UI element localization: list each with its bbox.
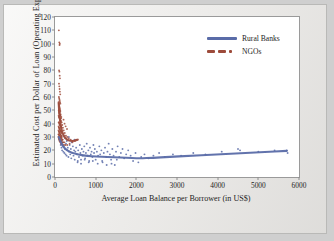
y-tick-mark (52, 150, 55, 151)
y-tick-label: 50 (44, 106, 51, 115)
y-tick-mark (52, 70, 55, 71)
chart-legend: Rural Banks NGOs (207, 33, 280, 59)
y-tick-label: 30 (44, 133, 51, 142)
x-axis-title: Average Loan Balance per Borrower (in US… (54, 194, 298, 203)
y-tick-mark (52, 163, 55, 164)
y-tick-mark (52, 110, 55, 111)
x-tick-label: 6000 (292, 181, 307, 190)
y-tick-label: 80 (44, 66, 51, 75)
y-tick-mark (52, 57, 55, 58)
x-tick-label: 0 (53, 181, 57, 190)
legend-item-rural-banks: Rural Banks (207, 33, 280, 44)
x-tick-label: 3000 (170, 181, 185, 190)
x-tick-mark (177, 177, 178, 180)
legend-label-rural-banks: Rural Banks (242, 34, 280, 43)
x-tick-mark (299, 177, 300, 180)
legend-label-ngos: NGOs (242, 47, 261, 56)
y-tick-label: 60 (44, 93, 51, 102)
y-tick-mark (52, 43, 55, 44)
series-rural-banks (59, 135, 289, 166)
x-tick-mark (95, 177, 96, 180)
chart-figure: Estimated Cost per Dollar of Loan (Opera… (8, 4, 308, 220)
legend-key-line-icon (207, 33, 237, 44)
y-tick-label: 40 (44, 119, 51, 128)
legend-key-dashed-icon (207, 46, 237, 57)
y-tick-mark (52, 123, 55, 124)
y-tick-mark (52, 17, 55, 18)
x-tick-mark (55, 177, 56, 180)
legend-item-ngos: NGOs (207, 46, 280, 57)
y-tick-label: 0 (47, 173, 51, 182)
y-tick-mark (52, 30, 55, 31)
y-axis-title: Estimated Cost per Dollar of Loan (Opera… (32, 0, 41, 167)
y-tick-label: 90 (44, 53, 51, 62)
x-tick-label: 4000 (210, 181, 225, 190)
y-tick-mark (52, 97, 55, 98)
y-tick-label: 120 (40, 13, 51, 22)
y-tick-mark (52, 83, 55, 84)
x-tick-label: 5000 (251, 181, 266, 190)
x-tick-mark (136, 177, 137, 180)
y-tick-label: 70 (44, 79, 51, 88)
y-tick-label: 10 (44, 159, 51, 168)
x-tick-label: 2000 (129, 181, 144, 190)
x-tick-label: 1000 (88, 181, 103, 190)
y-tick-label: 100 (40, 39, 51, 48)
y-tick-mark (52, 137, 55, 138)
y-tick-label: 20 (44, 146, 51, 155)
y-tick-label: 110 (40, 26, 51, 35)
plot-area: 0102030405060708090100110120 01000200030… (54, 16, 300, 178)
scanned-page: Estimated Cost per Dollar of Loan (Opera… (0, 0, 334, 241)
x-tick-mark (258, 177, 259, 180)
x-tick-mark (217, 177, 218, 180)
